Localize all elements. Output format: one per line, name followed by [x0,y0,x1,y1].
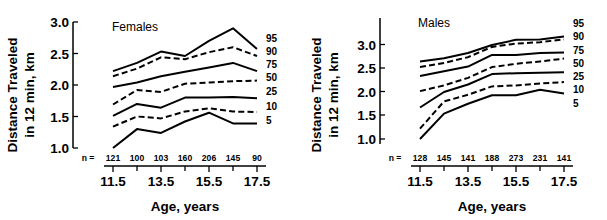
females-n-value-4: 206 [202,153,217,163]
females-n-value-0: 121 [106,153,121,163]
females-ytick-label-0: 1.5 [50,110,69,125]
females-pct-label-25: 25 [266,86,278,97]
females-y-ticks: 3.0 2.5 2.0 1.5 1.0 [50,15,78,156]
females-ytick-label-3: 3.0 [50,15,69,30]
males-n-value-2: 141 [461,153,476,163]
females-n-value-3: 160 [178,153,193,163]
males-xtick-label-2: 15.5 [503,174,530,189]
females-ytick-label-base: 1.0 [50,141,69,156]
females-ytick-label-2: 2.5 [50,47,69,62]
males-percentile-legend: 95 90 75 50 25 10 5 [573,18,585,109]
males-panel-title: Males [418,16,450,30]
females-percentile-curves [113,28,257,148]
females-pct-label-75: 75 [266,59,278,70]
males-plot-svg: Distance Traveled in 12 min, km 3.0 2.5 … [304,0,607,220]
females-curve-p25 [113,97,257,116]
males-pct-label-10: 10 [573,84,585,95]
females-pct-label-90: 90 [266,46,278,57]
males-ylabel-text-line1: Distance Traveled [309,38,324,153]
males-xtick-label-0: 11.5 [407,174,433,189]
males-n-value-4: 273 [509,153,524,163]
males-pct-label-5: 5 [573,98,579,109]
males-x-ticks [420,166,564,172]
females-x-tick-labels: 11.5 13.5 15.5 17.5 [100,174,270,189]
females-xtick-label-2: 15.5 [196,174,223,189]
males-ytick-label-1: 2.0 [357,85,376,100]
males-xtick-label-3: 17.5 [551,174,578,189]
females-pct-label-50: 50 [266,72,278,83]
males-n-value-6: 141 [557,153,572,163]
males-ytick-label-3: 3.0 [357,38,376,53]
females-n-value-1: 100 [130,153,145,163]
males-ytick-label-0: 1.5 [357,108,376,123]
females-x-axis-title: Age, years [151,199,219,214]
males-pct-label-75: 75 [573,45,585,56]
males-percentile-curves [420,37,564,140]
females-n-value-6: 90 [252,153,262,163]
females-n-value-5: 145 [226,153,241,163]
males-n-prefix: n = [389,153,402,163]
males-xtick-label-1: 13.5 [455,174,482,189]
females-panel-title: Females [112,20,158,34]
females-pct-label-10: 10 [266,101,278,112]
females-n-value-2: 103 [154,153,169,163]
males-ytick-label-2: 2.5 [357,61,376,76]
females-percentile-legend: 95 90 75 50 25 10 5 [266,33,278,126]
females-pct-label-95: 95 [266,33,278,44]
males-ylabel-text-line2: in 12 min, km [326,52,341,138]
females-ytick-label-1: 2.0 [50,78,69,93]
males-pct-label-25: 25 [573,71,585,82]
males-n-value-0: 128 [413,153,428,163]
panel-females: Distance Traveled in 12 min, km Distance… [0,0,303,220]
females-xtick-label-1: 13.5 [148,174,175,189]
females-curve-p50 [113,81,257,105]
females-ylabel-text-line1: Distance Traveled [5,38,20,153]
females-x-ticks [113,166,257,172]
females-ylabel-text-line2: in 12 min, km [22,52,37,138]
figure-two-panel-percentile-chart: Distance Traveled in 12 min, km Distance… [0,0,607,220]
males-x-tick-labels: 11.5 13.5 15.5 17.5 [407,174,577,189]
females-xtick-label-0: 11.5 [100,174,126,189]
males-pct-label-95: 95 [573,18,585,29]
females-y-axis-label: Distance Traveled in 12 min, km Distance… [5,38,37,153]
males-n-value-1: 145 [437,153,452,163]
males-n-value-3: 188 [485,153,500,163]
females-plot-svg: Distance Traveled in 12 min, km Distance… [0,0,303,220]
males-sample-size-row: n = 128 145 141 188 273 231 141 [389,153,572,163]
males-ytick-label-base: 1.0 [357,132,376,147]
males-curve-p95 [420,37,564,62]
males-pct-label-50: 50 [573,58,585,69]
panel-males: Distance Traveled in 12 min, km 3.0 2.5 … [304,0,607,220]
males-x-axis-title: Age, years [458,199,526,214]
males-n-value-5: 231 [533,153,548,163]
males-y-ticks: 3.0 2.5 2.0 1.5 1.0 [357,38,385,148]
females-sample-size-row: n = 121 100 103 160 206 145 90 [82,153,262,163]
females-pct-label-5: 5 [266,115,272,126]
males-curve-p5 [420,90,564,139]
males-pct-label-90: 90 [573,31,585,42]
females-xtick-label-3: 17.5 [244,174,271,189]
males-y-axis-label: Distance Traveled in 12 min, km [309,38,341,153]
females-n-prefix: n = [82,153,95,163]
